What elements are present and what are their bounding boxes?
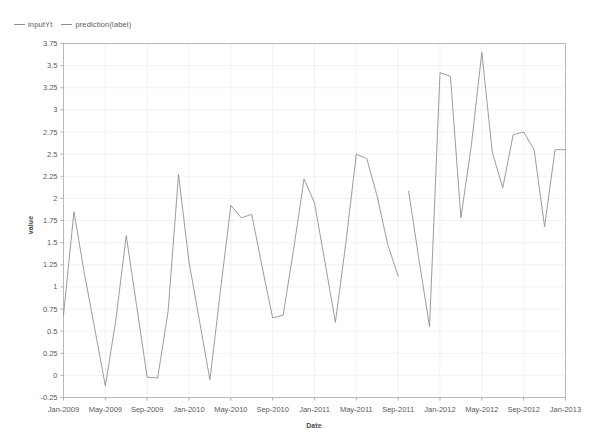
x-tick-label: May-2012 bbox=[465, 405, 498, 414]
y-tick-label: 0.25 bbox=[43, 349, 58, 358]
y-tick-label: 3.75 bbox=[43, 39, 58, 48]
y-tick-label: 3 bbox=[53, 105, 57, 114]
x-axis-ticks: Jan-2009May-2009Sep-2009Jan-2010May-2010… bbox=[48, 398, 581, 414]
x-tick-label: Sep-2011 bbox=[382, 405, 414, 414]
y-tick-label: 0.5 bbox=[47, 327, 57, 336]
y-axis-ticks: 3.753.53.2532.752.52.2521.751.51.2510.75… bbox=[40, 39, 63, 402]
x-tick-label: May-2011 bbox=[340, 405, 373, 414]
chart-plot: 3.753.53.2532.752.52.2521.751.51.2510.75… bbox=[0, 0, 590, 437]
y-tick-label: 1.25 bbox=[43, 260, 58, 269]
x-tick-label: Jan-2011 bbox=[299, 405, 330, 414]
x-tick-label: Jan-2013 bbox=[550, 405, 581, 414]
x-tick-label: Jan-2012 bbox=[424, 405, 455, 414]
y-axis-title: value bbox=[27, 216, 34, 235]
x-axis-title: Date bbox=[306, 422, 322, 429]
y-tick-label: 0 bbox=[53, 371, 57, 380]
y-tick-label: 2.75 bbox=[43, 128, 58, 137]
y-tick-label: 3.25 bbox=[43, 83, 58, 92]
y-tick-label: 0.75 bbox=[43, 305, 58, 314]
y-tick-label: 2.25 bbox=[43, 172, 58, 181]
y-tick-label: 2.5 bbox=[47, 150, 57, 159]
chart-container: inputYt prediction(label) 3.753.53.2532.… bbox=[0, 0, 590, 437]
x-tick-label: Sep-2010 bbox=[256, 405, 289, 414]
x-tick-label: May-2009 bbox=[89, 405, 122, 414]
x-tick-label: May-2010 bbox=[214, 405, 247, 414]
x-tick-label: Jan-2009 bbox=[48, 405, 79, 414]
gridlines bbox=[64, 44, 566, 398]
x-tick-label: Sep-2012 bbox=[507, 405, 540, 414]
y-tick-label: 1.75 bbox=[43, 216, 58, 225]
y-tick-label: 1.5 bbox=[47, 238, 57, 247]
x-tick-label: Sep-2009 bbox=[131, 405, 164, 414]
y-tick-label: 2 bbox=[53, 194, 57, 203]
y-tick-label: 3.5 bbox=[47, 61, 57, 70]
series-line-prediction-label- bbox=[409, 52, 566, 326]
y-tick-label: -0.25 bbox=[40, 393, 57, 402]
y-tick-label: 1 bbox=[53, 282, 57, 291]
x-tick-label: Jan-2010 bbox=[173, 405, 204, 414]
